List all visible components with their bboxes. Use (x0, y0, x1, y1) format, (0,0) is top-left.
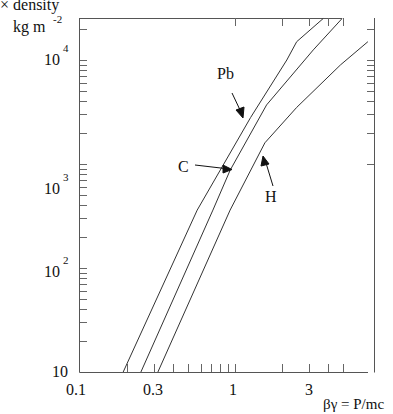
y-tick-100-exp: 2 (63, 255, 69, 266)
y-tick-1000: 10 (44, 181, 60, 197)
curves (123, 19, 368, 372)
y-tick-10000-exp: 4 (63, 43, 69, 54)
x-tick-3: 3 (305, 382, 313, 398)
arrow-c-head (223, 165, 232, 173)
annotation-c: C (178, 159, 189, 175)
x-tick-0.3: 0.3 (143, 382, 163, 398)
annotation-h: H (265, 189, 277, 205)
y-axis-label-line2: kg m (13, 19, 45, 35)
arrow-pb-head (236, 107, 244, 118)
y-tick-1000-exp: 3 (63, 172, 69, 183)
arrow-h-head (261, 156, 269, 166)
y-tick-10: 10 (52, 364, 68, 380)
y-tick-10000: 10 (44, 52, 60, 68)
curve-c (141, 19, 342, 372)
curve-h (158, 42, 368, 372)
y-axis-label-exponent: -2 (53, 14, 62, 25)
x-axis-label: βγ = P/mc (323, 397, 384, 412)
y-axis-label-line1: × density (0, 0, 59, 13)
x-tick-0.1: 0.1 (66, 382, 86, 398)
annotation-arrows (195, 93, 273, 186)
y-tick-100: 10 (44, 264, 60, 280)
annotation-pb: Pb (217, 66, 234, 82)
x-tick-1: 1 (229, 382, 237, 398)
